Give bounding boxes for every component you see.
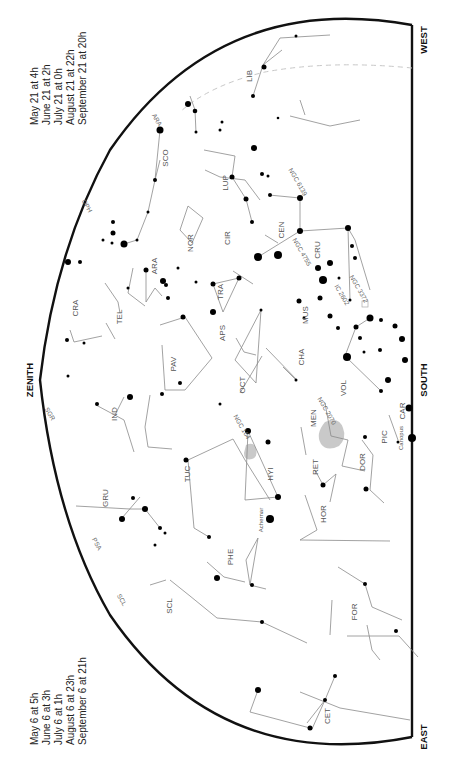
direction-east: EAST xyxy=(418,724,429,750)
time-entry: July 6 at 1h xyxy=(53,694,64,745)
constellation-label: GRU xyxy=(101,489,110,507)
constellation-label: APS xyxy=(218,325,227,341)
deep-sky-label: NGC 104 xyxy=(232,413,252,440)
constellation-label: ARA xyxy=(150,257,159,274)
constellation-label: MEN xyxy=(309,409,318,427)
constellation-label: FOR xyxy=(350,603,359,620)
constellation-label: CHA xyxy=(297,348,306,366)
constellation-label: LUP xyxy=(221,175,230,191)
time-entry: June 21 at 2h xyxy=(41,64,52,125)
horizon-arc xyxy=(40,19,412,745)
constellation-label: CRU xyxy=(313,241,322,259)
constellation-label: TEL xyxy=(115,309,124,324)
star-chart: NGC 6139NGC 4755NGC 3372IC 2602NGC 2070N… xyxy=(0,0,453,761)
edge-label: SCL xyxy=(116,593,129,608)
constellation-label: NOR xyxy=(186,234,195,252)
constellation-label: MUS xyxy=(301,306,310,324)
time-entry: July 21 at 0h xyxy=(53,68,64,125)
constellation-label: CIR xyxy=(223,231,232,245)
edge-label: ARA xyxy=(151,112,164,128)
time-entry: August 21 at 22h xyxy=(65,49,76,125)
times-top: May 21 at 4hJune 21 at 2hJuly 21 at 0hAu… xyxy=(29,32,88,125)
time-entry: June 6 at 3h xyxy=(41,690,52,745)
time-entry: May 21 at 4h xyxy=(29,67,40,125)
time-entry: August 6 at 23h xyxy=(65,675,76,745)
ecliptic-line xyxy=(180,65,412,112)
constellation-labels: LIBSCOLUPNORCIRCENCRUARATRACRATELMUSAPSP… xyxy=(71,70,407,724)
constellation-label: CEN xyxy=(277,221,286,238)
constellation-label: PHE xyxy=(226,549,235,565)
times-bottom: May 6 at 5hJune 6 at 3hJuly 6 at 1hAugus… xyxy=(29,657,88,745)
constellation-label: SCL xyxy=(165,598,174,614)
edge-labels: OPHSGRPSASCLARA xyxy=(44,112,164,607)
constellation-label: CAR xyxy=(398,402,407,419)
constellation-label: PIC xyxy=(380,430,389,444)
time-entry: September 21 at 20h xyxy=(77,32,88,125)
constellation-label: HYI xyxy=(266,467,275,480)
constellation-label: TUC xyxy=(183,466,192,483)
star-name-label: Canopus xyxy=(398,426,404,450)
constellation-label: HOR xyxy=(319,505,328,523)
constellation-label: DOR xyxy=(358,453,367,471)
constellation-label: TRA xyxy=(216,283,225,300)
deep-sky-label: NGC 6139 xyxy=(287,167,309,197)
constellation-label: SCO xyxy=(161,149,170,166)
constellation-label: OCT xyxy=(238,376,247,393)
direction-south: SOUTH xyxy=(418,363,429,396)
direction-west: WEST xyxy=(418,26,429,54)
edge-label: PSA xyxy=(91,536,104,551)
constellation-label: VOL xyxy=(339,379,348,396)
constellation-label: LIB xyxy=(245,70,254,82)
deep-sky-label: NGC 4755 xyxy=(291,237,313,267)
direction-zenith: ZENITH xyxy=(24,363,35,397)
constellation-label: CET xyxy=(323,708,332,724)
constellation-label: CRA xyxy=(71,299,80,317)
constellation-label: PAV xyxy=(169,356,178,371)
constellation-label: RET xyxy=(311,459,320,475)
deep-sky-labels: NGC 6139NGC 4755NGC 3372IC 2602NGC 2070N… xyxy=(232,167,370,441)
deep-sky-label: IC 2602 xyxy=(333,283,351,307)
star-name-label: Achernar xyxy=(258,508,264,532)
time-entry: September 6 at 21h xyxy=(77,657,88,745)
time-entry: May 6 at 5h xyxy=(29,693,40,745)
constellation-label: IND xyxy=(110,407,119,421)
